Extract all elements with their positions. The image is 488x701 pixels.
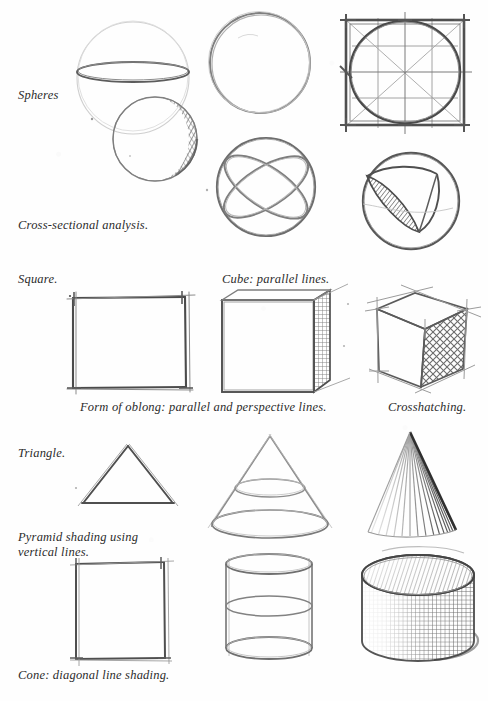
figure-sphere-wedge-cut [345, 148, 481, 256]
caption-cube-parallel: Cube: parallel lines. [222, 272, 329, 287]
figure-cube-perspective-crosshatch [363, 283, 488, 398]
caption-square: Square. [18, 272, 57, 287]
caption-form-of-oblong: Form of oblong: parallel and perspective… [80, 400, 327, 415]
figure-flat-square [63, 288, 213, 398]
figure-sphere-with-equator [60, 2, 220, 202]
caption-cone-diagonal: Cone: diagonal line shading. [18, 668, 169, 683]
figure-cone-shaded [352, 428, 487, 540]
figure-triangle-outline [68, 440, 193, 510]
caption-spheres: Spheres [18, 88, 59, 103]
caption-pyramid-shading: Pyramid shading using vertical lines. [18, 530, 138, 560]
caption-cross-sectional: Cross-sectional analysis. [18, 218, 148, 233]
caption-triangle: Triangle. [18, 446, 65, 461]
figure-cylinder-wireframe [210, 548, 338, 666]
figure-plain-circle [198, 8, 323, 123]
figure-square-with-inscribed-circle [330, 6, 480, 138]
figure-cylinder-shaded [348, 545, 488, 670]
caption-crosshatching: Crosshatching. [388, 400, 466, 415]
figure-rectangle-outline [66, 556, 206, 671]
figure-cone-wireframe [198, 432, 346, 540]
figure-cube-parallel-projection [218, 286, 368, 398]
figure-sphere-great-circles [200, 134, 336, 242]
drawing-plate: Spheres Cross-sectional analysis. Square… [0, 0, 488, 701]
